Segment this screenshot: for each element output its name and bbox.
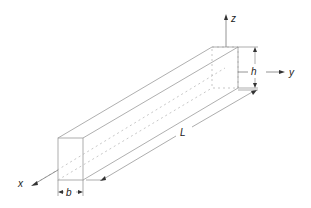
top-right-edge: [83, 47, 238, 138]
b-arrow-left-icon: [58, 190, 63, 194]
top-left-edge: [58, 47, 212, 138]
front-face: [58, 138, 83, 180]
bottom-left-edge: [58, 88, 212, 180]
centroid-axis: [36, 68, 225, 183]
h-dimension-label: h: [251, 66, 257, 77]
z-axis-label: z: [230, 13, 236, 24]
y-arrow-icon: [279, 70, 285, 74]
L-dimension-line: [102, 136, 176, 180]
back-face: [212, 47, 238, 88]
b-arrow-right-icon: [78, 190, 83, 194]
L-arrow-back-icon: [251, 90, 257, 95]
L-arrow-front-icon: [100, 176, 106, 181]
z-arrow-icon: [224, 14, 228, 20]
L-dimension-label: L: [180, 127, 186, 138]
y-axis-label: y: [288, 67, 295, 78]
b-dimension-label: b: [66, 187, 72, 198]
h-arrow-bottom-icon: [253, 83, 257, 88]
h-arrow-top-icon: [253, 47, 257, 52]
x-axis-label: x: [17, 178, 24, 189]
beam-diagram: z y h x b L: [0, 0, 311, 208]
x-arrow-icon: [31, 181, 38, 186]
bottom-right-edge: [83, 88, 238, 180]
